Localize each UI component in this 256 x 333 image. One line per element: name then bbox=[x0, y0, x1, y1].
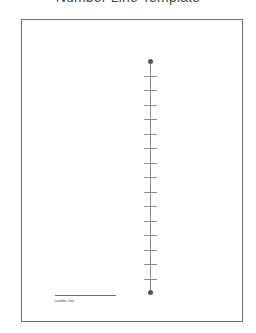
number-line-tick bbox=[144, 221, 157, 222]
caption-label: number line bbox=[55, 299, 117, 304]
number-line-tick bbox=[144, 192, 157, 193]
number-line-tick bbox=[144, 163, 157, 164]
number-line-tick bbox=[144, 177, 157, 178]
caption-block: number line bbox=[55, 295, 117, 304]
number-line-tick bbox=[144, 250, 157, 251]
number-line-tick bbox=[144, 134, 157, 135]
number-line-top-endpoint-icon bbox=[148, 59, 153, 64]
number-line-tick bbox=[144, 148, 157, 149]
number-line-tick bbox=[144, 206, 157, 207]
caption-rule bbox=[55, 295, 116, 296]
number-line bbox=[150, 61, 151, 293]
number-line-tick bbox=[144, 279, 157, 280]
worksheet-page: Number Line Template number line bbox=[0, 0, 256, 333]
number-line-tick bbox=[144, 76, 157, 77]
number-line-tick bbox=[144, 264, 157, 265]
number-line-bottom-endpoint-icon bbox=[148, 290, 153, 295]
page-title: Number Line Template bbox=[0, 0, 256, 5]
number-line-tick bbox=[144, 119, 157, 120]
number-line-tick bbox=[144, 105, 157, 106]
sheet-frame: number line bbox=[21, 19, 243, 322]
number-line-tick bbox=[144, 90, 157, 91]
number-line-tick bbox=[144, 235, 157, 236]
